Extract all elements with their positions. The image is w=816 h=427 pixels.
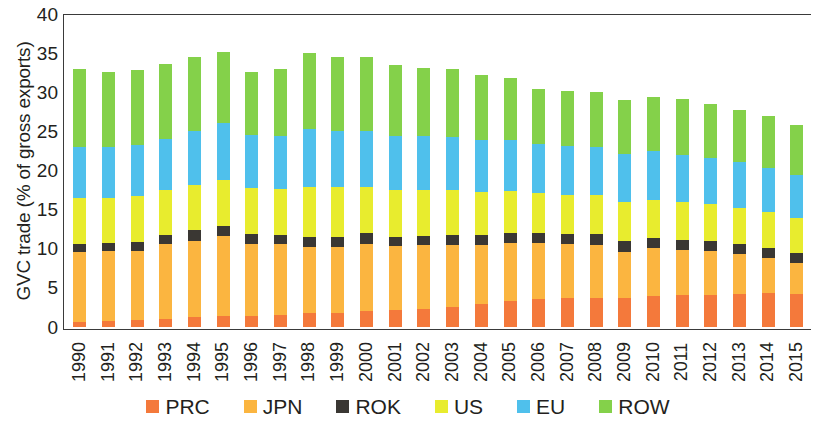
bar-column[interactable] [266,15,295,327]
bar-segment-us [446,190,459,235]
bar-column[interactable] [66,15,95,327]
x-tick-label: 1994 [185,342,203,382]
bar-segment-row [303,53,316,129]
x-tick-label: 1999 [328,342,346,382]
bar-column[interactable] [610,15,639,327]
bar-stack [790,125,803,328]
bar-segment-jpn [762,258,775,293]
bar-segment-us [360,187,373,234]
bar-column[interactable] [410,15,439,327]
bar-segment-us [704,204,717,241]
bar-segment-jpn [331,247,344,313]
y-tick-label: 0 [20,318,58,337]
bar-stack [561,91,574,327]
bar-segment-us [647,200,660,238]
bar-segment-us [475,192,488,235]
bar-segment-prc [274,315,287,328]
bar-segment-rok [217,226,230,236]
bar-segment-jpn [159,244,172,318]
bar-segment-jpn [590,245,603,297]
bar-segment-jpn [475,245,488,304]
bar-column[interactable] [725,15,754,327]
bar-column[interactable] [467,15,496,327]
bar-column[interactable] [352,15,381,327]
bar-column[interactable] [238,15,267,327]
bar-segment-rok [245,234,258,243]
bar-segment-prc [303,313,316,327]
legend-item-prc[interactable]: PRC [146,396,209,417]
bar-column[interactable] [295,15,324,327]
bar-column[interactable] [668,15,697,327]
x-tick-label: 2005 [500,342,518,382]
bar-segment-jpn [561,244,574,298]
bar-column[interactable] [639,15,668,327]
bar-segment-jpn [389,246,402,310]
bar-segment-jpn [790,263,803,294]
bar-column[interactable] [209,15,238,327]
x-tick-label: 2012 [701,342,719,382]
bar-segment-prc [217,316,230,328]
bar-segment-prc [790,294,803,328]
legend-item-row[interactable]: ROW [599,396,669,417]
bar-column[interactable] [696,15,725,327]
bar-segment-eu [504,140,517,192]
bar-column[interactable] [94,15,123,327]
bar-segment-eu [303,129,316,188]
bar-segment-row [274,69,287,136]
bar-segment-row [331,57,344,131]
bar-column[interactable] [152,15,181,327]
bar-column[interactable] [496,15,525,327]
x-tick-label: 2000 [357,342,375,382]
bar-segment-prc [245,316,258,328]
bar-segment-us [790,218,803,253]
bar-segment-row [647,97,660,152]
legend-label: EU [536,396,565,417]
y-axis-tick-labels: 4035302520151050 [20,0,58,345]
legend-item-us[interactable]: US [435,396,483,417]
bar-stack [590,92,603,328]
x-tick-label: 2015 [787,342,805,382]
x-axis-tick-labels: 1990199119921993199419951996199719981999… [65,332,811,394]
bar-segment-prc [561,298,574,327]
bar-column[interactable] [324,15,353,327]
bar-stack [676,99,689,328]
bar-segment-row [159,64,172,138]
bar-column[interactable] [754,15,783,327]
bar-segment-rok [561,234,574,244]
bar-segment-jpn [417,245,430,308]
bar-column[interactable] [524,15,553,327]
bar-column[interactable] [381,15,410,327]
bar-segment-row [733,110,746,162]
legend-item-rok[interactable]: ROK [336,396,401,417]
x-tick-slot: 1994 [179,332,208,394]
bar-column[interactable] [180,15,209,327]
y-tick-label: 20 [20,161,58,180]
bar-column[interactable] [782,15,811,327]
bar-segment-eu [475,140,488,192]
bar-column[interactable] [582,15,611,327]
bar-segment-row [102,72,115,148]
bar-segment-row [217,52,230,123]
legend-item-eu[interactable]: EU [517,396,565,417]
bar-segment-prc [475,304,488,327]
x-tick-label: 1992 [127,342,145,382]
bar-column[interactable] [438,15,467,327]
bar-stack [303,53,316,328]
bar-stack [188,57,201,328]
bar-segment-prc [73,322,86,327]
bar-stack [647,97,660,328]
bar-segment-jpn [274,244,287,314]
bar-segment-prc [647,296,660,327]
bar-segment-rok [389,237,402,246]
bar-segment-prc [733,294,746,328]
x-tick-slot: 1991 [93,332,122,394]
legend-item-jpn[interactable]: JPN [244,396,303,417]
bar-segment-us [676,202,689,240]
y-tick-label: 10 [20,239,58,258]
bar-segment-prc [102,321,115,327]
bar-column[interactable] [553,15,582,327]
bar-segment-eu [704,158,717,204]
bar-segment-prc [360,311,373,327]
bar-segment-eu [647,151,660,200]
bar-column[interactable] [123,15,152,327]
